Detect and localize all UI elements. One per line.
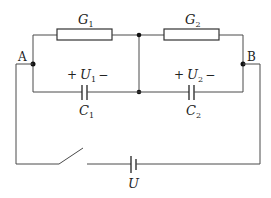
- circuit-diagram: A B G1 G2 +U1− +U2− C1 C2 U: [0, 0, 271, 198]
- junction-top-middle: [137, 33, 142, 38]
- outer-loop: [16, 64, 260, 173]
- source-u-label: U: [128, 176, 140, 191]
- wire-a-to-switch: [16, 64, 59, 164]
- resistor-g1: [57, 29, 112, 40]
- voltage-u2-label: +U2−: [174, 67, 215, 84]
- voltage-u1-label: +U1−: [67, 67, 108, 84]
- switch-blade: [59, 148, 83, 164]
- node-a-label: A: [17, 50, 27, 64]
- resistor-g2-label: G2: [185, 12, 200, 29]
- node-b-label: B: [247, 50, 256, 64]
- resistor-g2: [164, 29, 219, 40]
- capacitor-c2-label: C2: [186, 103, 201, 120]
- capacitor-c1-label: C1: [79, 103, 94, 120]
- wire-g2-to-b: [219, 35, 243, 64]
- wire-a-to-g1: [33, 35, 57, 64]
- resistor-g1-label: G1: [78, 12, 93, 29]
